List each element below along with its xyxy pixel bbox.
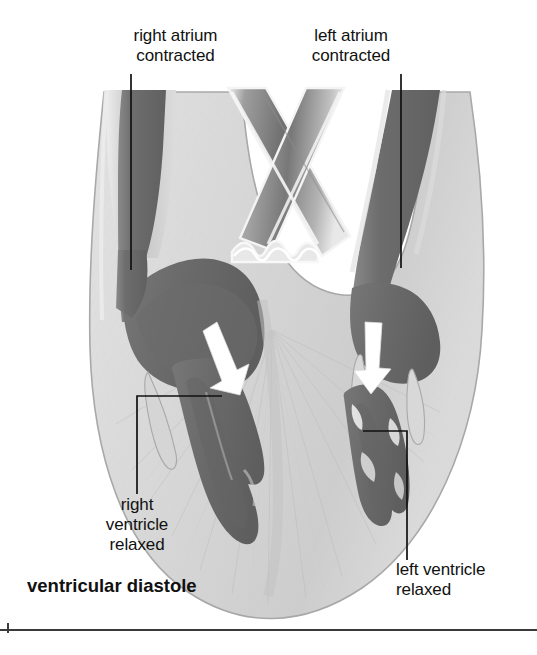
label-right-ventricle: right ventricle relaxed xyxy=(93,495,181,555)
rule-tick-mark xyxy=(7,623,9,633)
figure-caption-ventricular-diastole: ventricular diastole xyxy=(27,576,257,596)
semilunar-valves xyxy=(232,241,320,262)
heart-diastole-figure: right atrium contracted left atrium cont… xyxy=(0,0,537,655)
label-right-atrium: right atrium contracted xyxy=(113,26,238,66)
label-left-ventricle: left ventricle relaxed xyxy=(396,560,521,600)
bottom-divider-rule xyxy=(0,629,537,631)
heart-cross-section-illustration xyxy=(0,0,537,655)
label-left-atrium: left atrium contracted xyxy=(292,26,410,66)
